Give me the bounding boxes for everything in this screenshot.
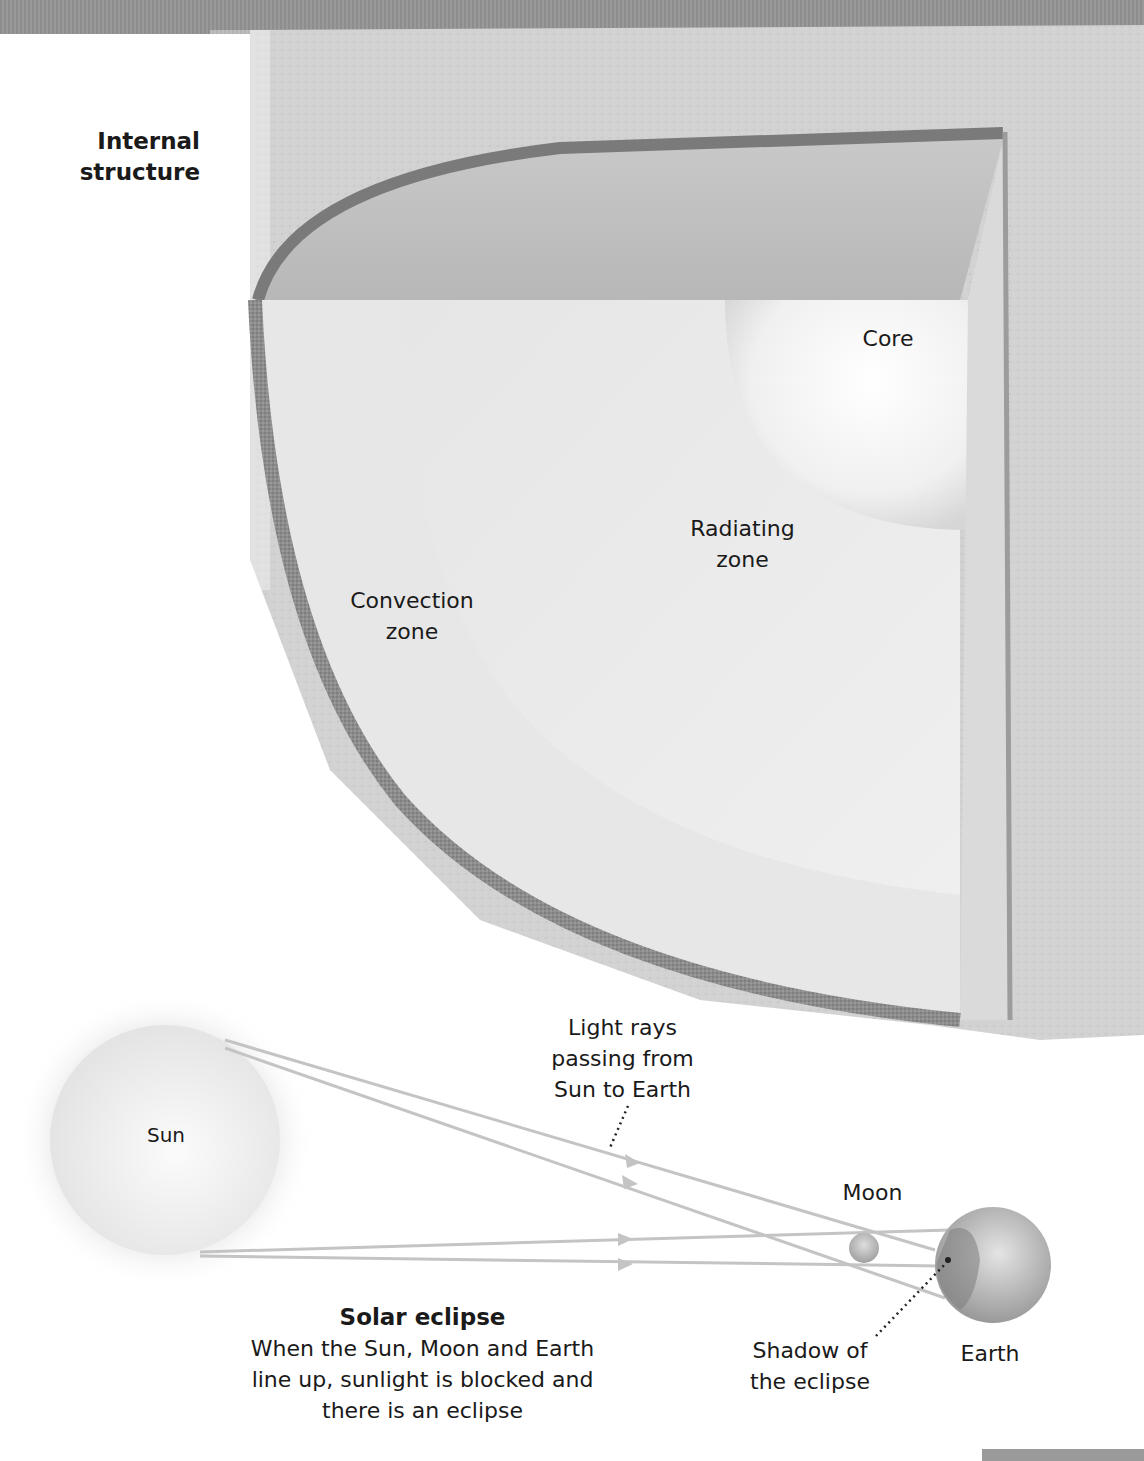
shadow-line1: Shadow of — [735, 1335, 885, 1366]
sun-label: Sun — [128, 1120, 204, 1151]
convection-zone-label: Convection zone — [336, 585, 488, 647]
light-rays-line2: passing from — [540, 1043, 705, 1074]
ray-arrowheads — [618, 1154, 640, 1271]
eclipse-heading: Solar eclipse — [225, 1302, 620, 1333]
eclipse-caption-line1: When the Sun, Moon and Earth — [225, 1333, 620, 1364]
diagram-canvas — [0, 0, 1144, 1461]
structure-title-line2: structure — [70, 157, 200, 188]
page-corner-tab — [982, 1449, 1144, 1461]
moon-icon — [849, 1233, 879, 1263]
structure-title-line1: Internal — [70, 126, 200, 157]
structure-title: Internal structure — [70, 126, 200, 188]
core-label: Core — [848, 323, 928, 354]
radiating-zone-line2: zone — [670, 544, 815, 575]
moon-label: Moon — [830, 1177, 915, 1208]
radiating-zone-label: Radiating zone — [670, 513, 815, 575]
rays-leader-line — [609, 1106, 628, 1150]
light-rays-line3: Sun to Earth — [540, 1074, 705, 1105]
eclipse-caption-line2: line up, sunlight is blocked and — [225, 1364, 620, 1395]
shadow-line2: the eclipse — [735, 1366, 885, 1397]
shadow-label: Shadow of the eclipse — [735, 1335, 885, 1397]
radiating-zone-line1: Radiating — [670, 513, 815, 544]
eclipse-caption: Solar eclipse When the Sun, Moon and Ear… — [225, 1302, 620, 1426]
light-rays-label: Light rays passing from Sun to Earth — [540, 1012, 705, 1105]
eclipse-caption-line3: there is an eclipse — [225, 1395, 620, 1426]
convection-zone-line1: Convection — [336, 585, 488, 616]
convection-zone-line2: zone — [336, 616, 488, 647]
light-rays-line1: Light rays — [540, 1012, 705, 1043]
earth-label: Earth — [950, 1338, 1030, 1369]
